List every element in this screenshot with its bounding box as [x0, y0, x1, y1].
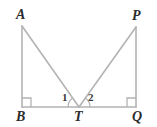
arc-angle-1 [68, 98, 73, 107]
right-angle-mark-B [22, 98, 31, 107]
vertex-label-P: P [132, 9, 141, 23]
geometry-figure: A P B T Q 1 2 [0, 0, 157, 127]
vertex-label-T: T [74, 110, 83, 124]
vertex-label-B: B [16, 110, 25, 124]
vertex-label-Q: Q [132, 110, 142, 124]
right-angle-mark-Q [127, 98, 136, 107]
vertex-label-A: A [16, 8, 25, 22]
segment-AT [22, 26, 79, 107]
angle-label-2: 2 [88, 92, 94, 103]
angle-label-1: 1 [62, 92, 68, 103]
